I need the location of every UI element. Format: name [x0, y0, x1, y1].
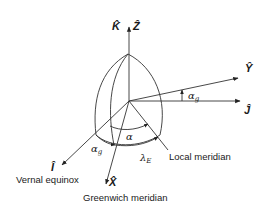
earth-fixed-inertial-frame-diagram: K̂ Ẑ Ŷ Ĵ Î X̂ αg α αg λE Local meridian … — [0, 0, 272, 204]
y-axis-label: Ŷ — [245, 62, 254, 74]
k-axis-label: K̂ — [112, 20, 121, 32]
dome-right-arc — [128, 54, 162, 135]
greenwich-meridian-label: Greenwich meridian — [83, 192, 167, 203]
z-axis-label: Ẑ — [132, 20, 141, 32]
lambda-e-label: λE — [139, 152, 151, 165]
y-axis-line — [129, 78, 238, 101]
vernal-equinox-label: Vernal equinox — [16, 174, 79, 185]
alpha-g-bottom-label: αg — [91, 143, 103, 156]
alpha-arc — [110, 124, 148, 130]
j-axis-label: Ĵ — [244, 104, 251, 116]
local-meridian-label: Local meridian — [169, 151, 231, 162]
alpha-label: α — [126, 131, 133, 142]
i-axis-label: Î — [51, 161, 56, 173]
x-axis-label: X̂ — [108, 176, 117, 188]
